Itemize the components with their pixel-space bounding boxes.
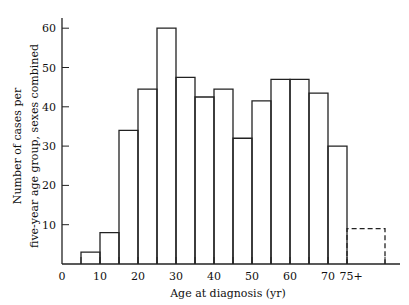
histogram-bar-35-40: [195, 97, 214, 264]
histogram-bar-10-15: [100, 233, 119, 264]
x-tick-label: 50: [245, 270, 259, 283]
x-tick-label: 0: [59, 270, 66, 283]
x-axis-label: Age at diagnosis (yr): [169, 287, 286, 300]
x-tick-label: 70: [321, 270, 335, 283]
y-axis-label-line1: Number of cases per: [11, 87, 24, 204]
histogram-bar-30-35: [176, 77, 195, 264]
y-tick-label: 20: [42, 179, 56, 192]
y-tick-label: 50: [42, 62, 56, 75]
histogram-bar-20-25: [138, 89, 157, 264]
histogram-bar-50-55: [252, 101, 271, 264]
y-axis-label-line2: five-year age group, sexes combined: [28, 44, 41, 248]
histogram-bar-25-30: [157, 28, 176, 264]
y-tick-label: 10: [42, 219, 56, 232]
histogram-bar-65-70: [309, 93, 328, 264]
histogram-chart: 102030405060 01020304050607075+ Age at d…: [0, 0, 409, 305]
histogram-bar-55-60: [271, 79, 290, 264]
y-tick-label: 40: [42, 101, 56, 114]
histogram-bars: [81, 28, 385, 264]
x-tick-label: 60: [283, 270, 297, 283]
y-axis-ticks: 102030405060: [42, 22, 69, 232]
histogram-bar-60-65: [290, 79, 309, 264]
y-tick-label: 60: [42, 22, 56, 35]
x-tick-label: 75+: [339, 270, 362, 283]
histogram-bar-70-75: [328, 146, 347, 264]
y-tick-label: 30: [42, 140, 56, 153]
x-tick-label: 30: [169, 270, 183, 283]
histogram-bar-15-20: [119, 130, 138, 264]
histogram-bar-45-50: [233, 138, 252, 264]
histogram-bar-40-45: [214, 89, 233, 264]
x-tick-label: 10: [93, 270, 107, 283]
x-tick-label: 40: [207, 270, 221, 283]
x-axis-ticks: 01020304050607075+: [59, 257, 386, 283]
histogram-bar-5-10: [81, 252, 100, 264]
histogram-bar-75plus: [347, 229, 385, 264]
x-tick-label: 20: [131, 270, 145, 283]
